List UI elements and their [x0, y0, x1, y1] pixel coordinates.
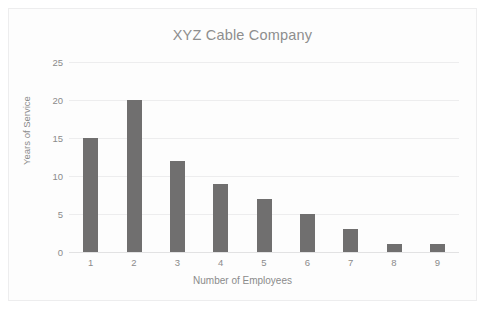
gridline — [69, 252, 459, 253]
x-axis-tick-label: 6 — [287, 257, 327, 268]
bar[interactable] — [127, 100, 142, 252]
bar[interactable] — [430, 244, 445, 252]
x-axis-tick-label: 5 — [244, 257, 284, 268]
bar[interactable] — [343, 229, 358, 252]
x-axis-tick-label: 2 — [114, 257, 154, 268]
y-axis-tick-labels: 0510152025 — [35, 62, 63, 252]
bar[interactable] — [213, 184, 228, 252]
chart-title: XYZ Cable Company — [9, 27, 476, 43]
x-axis-tick-label: 3 — [157, 257, 197, 268]
chart-frame: XYZ Cable Company Years of Service 05101… — [8, 8, 477, 301]
bar[interactable] — [257, 199, 272, 252]
y-axis-title: Years of Service — [21, 85, 32, 177]
bar-series — [69, 62, 459, 252]
bar[interactable] — [170, 161, 185, 252]
x-axis-tick-label: 7 — [331, 257, 371, 268]
bar[interactable] — [83, 138, 98, 252]
y-axis-tick-label: 10 — [37, 171, 63, 182]
bar[interactable] — [387, 244, 402, 252]
y-axis-tick-label: 20 — [37, 95, 63, 106]
x-axis-tick-label: 9 — [417, 257, 457, 268]
x-axis-tick-labels: 123456789 — [69, 257, 459, 273]
x-axis-tick-label: 1 — [71, 257, 111, 268]
plot-area — [69, 62, 459, 252]
y-axis-tick-label: 5 — [37, 209, 63, 220]
y-axis-tick-label: 15 — [37, 133, 63, 144]
y-axis-tick-label: 25 — [37, 57, 63, 68]
x-axis-tick-label: 8 — [374, 257, 414, 268]
x-axis-title: Number of Employees — [9, 275, 476, 286]
y-axis-tick-label: 0 — [37, 247, 63, 258]
bar[interactable] — [300, 214, 315, 252]
x-axis-tick-label: 4 — [201, 257, 241, 268]
